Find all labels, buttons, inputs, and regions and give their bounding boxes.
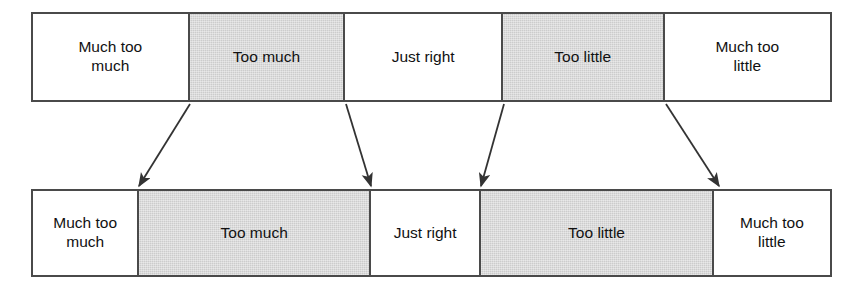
scale-segment-label: Much too little <box>738 214 806 252</box>
scale-segment: Much too much <box>33 14 190 100</box>
scale-segment-label: Just right <box>390 48 457 67</box>
arrow-boundary-4 <box>666 104 719 186</box>
scale-segment-label: Much too little <box>713 38 781 76</box>
scale-segment: Much too little <box>665 14 830 100</box>
equal-interval-scale-bar: Much too muchToo muchJust rightToo littl… <box>31 12 832 102</box>
scale-segment: Too little <box>503 14 665 100</box>
scale-segment: Much too little <box>714 191 830 275</box>
arrow-boundary-3 <box>481 104 504 186</box>
scale-segment: Just right <box>371 191 481 275</box>
scale-segment: Just right <box>345 14 503 100</box>
scale-segment-label: Much too much <box>76 38 144 76</box>
scale-segment-label: Too much <box>231 48 302 67</box>
scale-segment: Too little <box>481 191 714 275</box>
proportional-scale-bar: Much too muchToo muchJust rightToo littl… <box>31 189 832 277</box>
scale-segment-label: Too much <box>219 224 290 243</box>
scale-segment: Much too much <box>33 191 139 275</box>
scale-segment: Too much <box>139 191 371 275</box>
arrow-boundary-1 <box>139 104 190 186</box>
scale-segment-label: Much too much <box>51 214 119 252</box>
scale-comparison-diagram: Much too muchToo muchJust rightToo littl… <box>0 0 859 292</box>
scale-segment: Too much <box>190 14 346 100</box>
scale-segment-label: Too little <box>552 48 613 67</box>
arrow-boundary-2 <box>346 104 371 186</box>
scale-segment-label: Just right <box>392 224 459 243</box>
scale-segment-label: Too little <box>566 224 627 243</box>
